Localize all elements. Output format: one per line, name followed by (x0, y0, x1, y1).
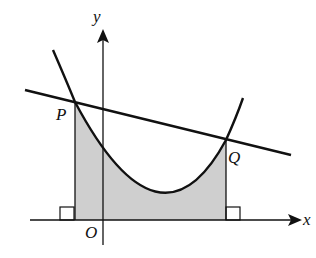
right-angle-mark-p (60, 207, 74, 220)
right-angle-mark-q (226, 207, 240, 220)
origin-label: O (85, 223, 97, 242)
point-p-label: P (55, 105, 66, 124)
x-axis-label: x (302, 210, 311, 229)
point-q-label: Q (228, 148, 240, 167)
diagram-canvas: y x O P Q (0, 0, 316, 258)
y-axis-label: y (91, 7, 101, 26)
